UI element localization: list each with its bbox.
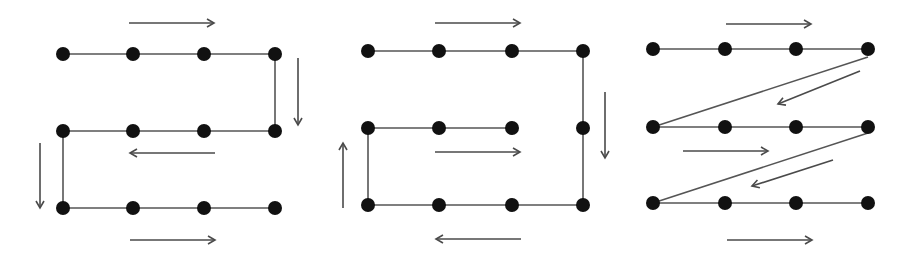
scan-path-diagrams: [0, 0, 913, 261]
grid-node: [361, 44, 375, 58]
grid-node: [718, 196, 732, 210]
grid-node: [505, 198, 519, 212]
grid-node: [432, 44, 446, 58]
grid-node: [576, 121, 590, 135]
grid-node: [646, 42, 660, 56]
grid-node: [789, 196, 803, 210]
spiral-path-diagram: [343, 23, 605, 239]
path-edge: [653, 133, 868, 203]
grid-node: [268, 47, 282, 61]
grid-node: [56, 124, 70, 138]
grid-node: [56, 47, 70, 61]
zigzag-raster-path-diagram: [646, 24, 875, 240]
grid-node: [861, 42, 875, 56]
grid-node: [718, 42, 732, 56]
grid-node: [505, 121, 519, 135]
grid-node: [432, 198, 446, 212]
grid-node: [789, 42, 803, 56]
grid-node: [197, 124, 211, 138]
grid-node: [718, 120, 732, 134]
serpentine-path-diagram: [40, 23, 298, 240]
grid-node: [861, 120, 875, 134]
grid-node: [576, 44, 590, 58]
grid-node: [56, 201, 70, 215]
direction-arrow-down-left-icon: [778, 71, 860, 104]
grid-node: [197, 47, 211, 61]
path-edge: [653, 57, 868, 127]
grid-node: [576, 198, 590, 212]
grid-node: [505, 44, 519, 58]
grid-node: [268, 124, 282, 138]
grid-node: [126, 201, 140, 215]
grid-node: [268, 201, 282, 215]
grid-node: [646, 120, 660, 134]
grid-node: [361, 121, 375, 135]
grid-node: [861, 196, 875, 210]
grid-node: [126, 124, 140, 138]
direction-arrow-down-left-icon: [752, 160, 833, 186]
grid-node: [646, 196, 660, 210]
grid-node: [361, 198, 375, 212]
grid-node: [432, 121, 446, 135]
grid-node: [126, 47, 140, 61]
grid-node: [197, 201, 211, 215]
grid-node: [789, 120, 803, 134]
